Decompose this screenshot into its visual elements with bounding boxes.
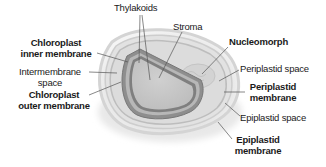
- label-nucleomorph: Nucleomorph: [229, 37, 288, 48]
- label-line: space: [12, 78, 88, 89]
- label-line: membrane: [232, 146, 284, 157]
- label-intermembrane-space: Intermembrane space: [12, 67, 88, 88]
- label-line: Chloroplast: [16, 38, 96, 49]
- label-periplastid-membrane: Periplastid membrane: [247, 82, 299, 103]
- label-line: Epiplastid: [232, 135, 284, 146]
- label-epiplastid-membrane: Epiplastid membrane: [232, 135, 284, 156]
- label-periplastid-space: Periplastid space: [240, 64, 309, 75]
- label-thylakoids: Thylakoids: [114, 3, 157, 14]
- label-chloroplast-outer-membrane: Chloroplast outer membrane: [14, 90, 94, 111]
- label-epiplastid-space: Epiplastid space: [240, 113, 306, 124]
- label-line: membrane: [247, 93, 299, 104]
- label-line: Periplastid: [247, 82, 299, 93]
- label-stroma: Stroma: [173, 22, 202, 33]
- label-chloroplast-inner-membrane: Chloroplast inner membrane: [16, 38, 96, 59]
- label-line: inner membrane: [16, 49, 96, 60]
- label-line: Chloroplast: [14, 90, 94, 101]
- label-line: Intermembrane: [12, 67, 88, 78]
- label-line: outer membrane: [14, 101, 94, 112]
